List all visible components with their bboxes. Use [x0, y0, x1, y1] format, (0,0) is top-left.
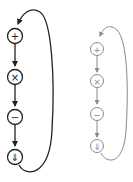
multiply-icon: × [11, 72, 19, 83]
node-subtract: − [8, 110, 23, 125]
double-down-arrow-icon: ⇓ [93, 142, 101, 152]
node-add: + [8, 29, 23, 44]
add-icon: + [11, 31, 19, 42]
node-down: ⇓ [8, 150, 23, 165]
add-icon: + [93, 45, 101, 55]
node-down: ⇓ [91, 140, 104, 153]
diagram-canvas: + × − ⇓ + × − [0, 0, 133, 182]
subtract-icon: − [11, 112, 19, 123]
double-down-arrow-icon: ⇓ [11, 152, 19, 163]
loop-arrow [100, 27, 127, 160]
node-multiply: × [8, 70, 23, 85]
cycle-diagram-light: + × − ⇓ [91, 27, 128, 160]
node-multiply: × [91, 75, 104, 88]
subtract-icon: − [93, 110, 101, 120]
node-subtract: − [91, 108, 104, 121]
cycle-diagram-dark: + × − ⇓ [8, 10, 54, 172]
loop-arrow [18, 10, 53, 172]
multiply-icon: × [93, 77, 101, 87]
node-add: + [91, 43, 104, 56]
